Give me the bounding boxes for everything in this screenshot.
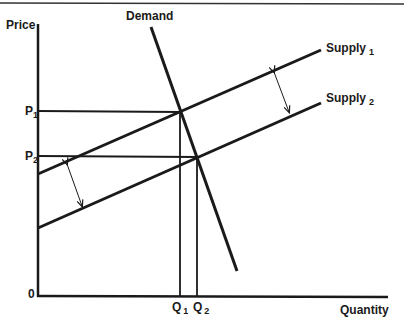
supply2-label: Supply2 (326, 91, 374, 107)
demand-curve (151, 27, 237, 271)
supply1-label: Supply1 (326, 41, 374, 57)
p1-guide-line (38, 111, 181, 112)
top-border (0, 3, 404, 4)
demand-label: Demand (126, 9, 173, 23)
supply-demand-diagram: Price Quantity 0 Demand Supply1 Supply2 … (0, 0, 404, 325)
p1-label: P1 (25, 104, 38, 120)
p2-label: P2 (25, 149, 38, 165)
origin-label: 0 (28, 287, 35, 301)
y-axis-label: Price (6, 18, 36, 32)
x-axis-label: Quantity (340, 303, 389, 317)
shift-arrow-left (67, 164, 82, 206)
x-axis (37, 296, 388, 297)
shift-arrow-right (274, 72, 289, 112)
p2-guide-line (38, 156, 197, 157)
q1-label: Q1 (172, 300, 188, 316)
q2-label: Q2 (193, 300, 209, 316)
